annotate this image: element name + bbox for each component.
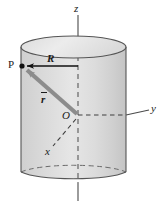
cylinder-top-cap: [21, 36, 126, 58]
z-axis-label: z: [74, 3, 78, 14]
y-axis-label: y: [151, 103, 156, 114]
physics-diagram-cylinder: z y x O P R r: [0, 0, 163, 208]
y-axis-outer-segment: [126, 110, 149, 115]
cylinder-diagram-canvas: [0, 0, 163, 208]
position-vector-letter: r: [41, 93, 45, 105]
point-p-marker: [19, 63, 24, 68]
point-p-label: P: [8, 59, 14, 70]
radius-label: R: [47, 53, 54, 64]
position-vector-label: r: [41, 92, 47, 105]
origin-label: O: [62, 110, 70, 121]
x-axis-label: x: [45, 146, 50, 157]
